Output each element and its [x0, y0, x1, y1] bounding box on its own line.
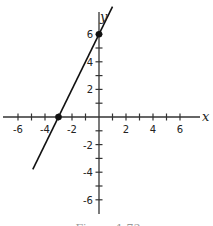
- chart: -6-4-2246642-2-4-6 x y Figure 1.73: [0, 0, 213, 226]
- y-tick-label: -4: [83, 167, 93, 178]
- x-tick-label: -6: [13, 124, 23, 135]
- x-tick-label: 2: [123, 124, 129, 135]
- x-tick-label: -4: [40, 124, 50, 135]
- y-tick-label: 2: [87, 84, 93, 95]
- axes: [3, 12, 200, 214]
- x-axis-label: x: [202, 109, 210, 124]
- x-tick-label: 6: [177, 124, 183, 135]
- y-axis-label: y: [99, 9, 108, 24]
- x-tick-label: -2: [67, 124, 77, 135]
- y-tick-label: -2: [83, 140, 93, 151]
- figure-caption: Figure 1.73: [75, 222, 140, 226]
- y-tick-label: 6: [87, 29, 93, 40]
- data-point: [96, 31, 103, 38]
- x-tick-label: 4: [150, 124, 156, 135]
- y-tick-label: -6: [83, 195, 93, 206]
- data-point: [55, 114, 62, 121]
